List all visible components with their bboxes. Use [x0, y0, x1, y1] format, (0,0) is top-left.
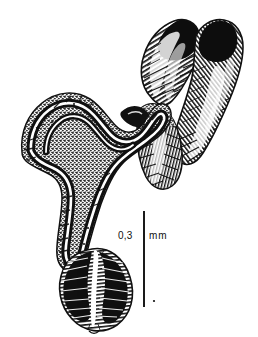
scalebar-unit-label: mm	[149, 230, 167, 242]
scalebar-line	[143, 211, 145, 307]
anatomical-drawing	[0, 0, 258, 337]
ink-speck	[153, 300, 155, 302]
figure-root: 0,3 mm	[0, 0, 258, 337]
scalebar-value-label: 0,3	[118, 230, 133, 242]
